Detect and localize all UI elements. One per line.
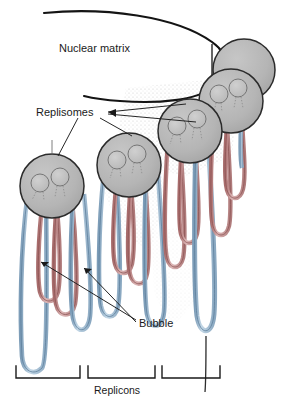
- replisomes-label: Replisomes: [36, 106, 94, 118]
- dna-loops-group-1: [21, 192, 91, 372]
- replication-diagram: Nuclear matrix Replisomes Bubble Replico…: [0, 0, 282, 406]
- replicon-bracket-2: [88, 366, 155, 378]
- replisome-1: [20, 140, 84, 218]
- bubble-label: Bubble: [139, 317, 173, 329]
- replicon-bracket-3: [162, 366, 220, 378]
- dna-filament-tail: [205, 336, 206, 392]
- replicons-label: Replicons: [94, 384, 140, 396]
- replisome-2: [97, 133, 161, 197]
- replicon-brackets: [16, 366, 220, 378]
- diagram-canvas: Nuclear matrix Replisomes Bubble Replico…: [0, 0, 282, 406]
- replisome-3: [158, 99, 222, 163]
- nuclear-matrix-label: Nuclear matrix: [59, 42, 130, 54]
